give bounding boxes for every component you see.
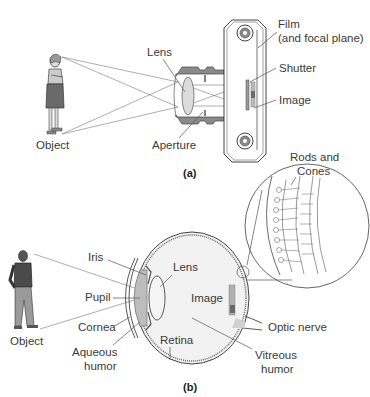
label-cones: Cones [297,165,330,177]
shutter [246,80,249,110]
diagram-canvas: Object Lens Aperture Film (and focal pla… [0,0,370,397]
panel-b-eye: Object Iris Pupil Cornea Aqueous humor L… [10,151,369,393]
label-rods: Rods and [290,151,339,163]
label-vitreous-humor: humor [261,363,294,375]
inverted-image-a [251,82,255,107]
label-shutter: Shutter [279,62,316,74]
label-aqueous-humor: humor [84,360,117,372]
label-object-b: Object [10,335,44,347]
object-man-figure [10,251,38,330]
label-focal-plane: (and focal plane) [278,32,364,44]
label-aperture: Aperture [152,139,196,151]
label-aqueous: Aqueous [72,346,118,358]
caption-a: (a) [183,167,197,179]
label-image-b: Image [191,292,223,304]
label-lens-a: Lens [147,46,172,58]
eye-lens [149,276,165,320]
label-pupil: Pupil [85,291,111,303]
label-optic-nerve: Optic nerve [268,321,327,333]
label-lens-b: Lens [173,261,198,273]
inverted-image-b [229,285,235,315]
caption-b: (b) [183,381,197,393]
light-rays-a [62,57,249,134]
retina-magnified-view [237,164,369,288]
object-woman-figure [46,54,64,134]
label-iris: Iris [88,251,104,263]
label-retina: Retina [160,334,194,346]
camera-lens-barrel [174,67,224,124]
camera-body [224,20,266,162]
label-vitreous: Vitreous [255,349,297,361]
label-object-a: Object [36,139,70,151]
label-cornea: Cornea [78,321,116,333]
label-film: Film [278,18,300,30]
camera-lens-element [182,77,194,115]
label-image-a: Image [279,94,311,106]
